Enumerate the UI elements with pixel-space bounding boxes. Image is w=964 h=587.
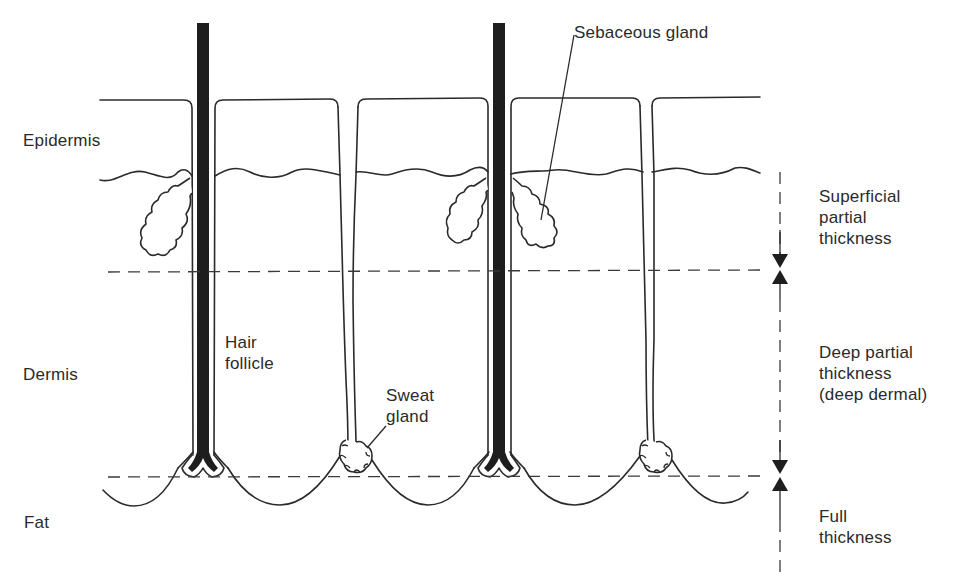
depth-scale bbox=[772, 172, 788, 575]
arrow-up-icon bbox=[772, 477, 788, 491]
arrow-down-icon bbox=[772, 254, 788, 268]
label-sweat-gland: Sweat gland bbox=[386, 385, 434, 427]
diagram-illustration bbox=[0, 0, 964, 587]
label-full-thickness: Full thickness bbox=[819, 506, 892, 548]
hair-follicle-2 bbox=[474, 23, 524, 477]
sweat-gland-2 bbox=[640, 106, 673, 473]
label-hair-follicle: Hair follicle bbox=[225, 332, 274, 374]
sebaceous-gland-leader bbox=[541, 35, 574, 220]
label-epidermis: Epidermis bbox=[23, 130, 100, 151]
label-fat: Fat bbox=[24, 512, 49, 533]
sweat-gland-leader bbox=[367, 426, 386, 448]
arrow-down-icon bbox=[772, 460, 788, 474]
sebaceous-gland-1 bbox=[141, 178, 192, 255]
label-superficial-partial-thickness: Superficial partial thickness bbox=[819, 186, 901, 249]
hair-follicle-1 bbox=[178, 23, 228, 477]
label-deep-partial-thickness: Deep partial thickness (deep dermal) bbox=[819, 342, 927, 405]
skin-burn-depth-diagram: Epidermis Dermis Fat Hair follicle Sweat… bbox=[0, 0, 964, 587]
arrow-up-icon bbox=[772, 270, 788, 284]
label-dermis: Dermis bbox=[23, 364, 78, 385]
sebaceous-gland-3 bbox=[512, 178, 557, 248]
label-sebaceous-gland: Sebaceous gland bbox=[574, 22, 708, 43]
dermis-fat-boundary-line bbox=[108, 476, 760, 477]
sweat-gland-1 bbox=[338, 107, 372, 473]
sebaceous-gland-2 bbox=[446, 178, 488, 243]
